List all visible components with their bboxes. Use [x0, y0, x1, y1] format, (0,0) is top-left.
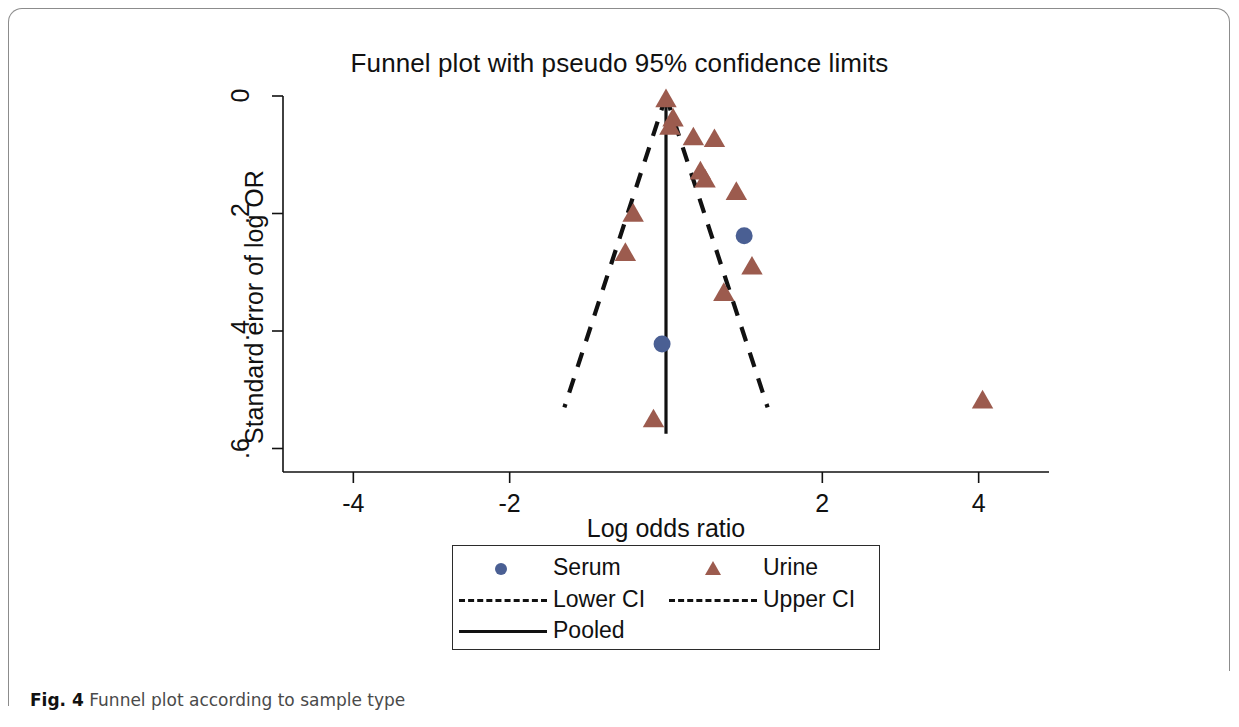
data-point-serum	[736, 227, 753, 244]
y-axis-title: Standard error of log OR	[240, 170, 269, 444]
y-axis-tick-label: 0	[226, 75, 255, 117]
legend-item-upper-ci: Upper CI	[667, 583, 855, 615]
legend-key-serum	[457, 552, 549, 582]
legend-item-label: Serum	[549, 554, 621, 581]
legend-key-ci	[457, 584, 549, 614]
legend-item-serum: Serum	[457, 551, 621, 583]
legend-item-label: Urine	[759, 554, 818, 581]
funnel-plot: Funnel plot with pseudo 95% confidence l…	[0, 0, 1239, 680]
legend-triangle-marker-icon	[705, 561, 721, 575]
legend: SerumUrineLower CIUpper CIPooled	[452, 545, 880, 650]
data-point-urine	[704, 128, 725, 147]
legend-circle-marker-icon	[495, 563, 507, 575]
data-point-urine	[726, 181, 747, 200]
legend-item-pooled: Pooled	[457, 614, 625, 646]
data-point-urine	[713, 282, 734, 301]
legend-dashed-line-icon	[669, 599, 757, 602]
data-point-urine	[615, 242, 636, 261]
legend-item-label: Lower CI	[549, 586, 645, 613]
legend-key-urine	[667, 552, 759, 582]
data-point-urine	[741, 256, 762, 275]
legend-item-urine: Urine	[667, 551, 818, 583]
caption-text: Funnel plot according to sample type	[89, 690, 405, 710]
data-point-urine	[655, 88, 676, 107]
legend-item-lower-ci: Lower CI	[457, 583, 645, 615]
data-point-urine	[683, 127, 704, 146]
data-point-urine	[643, 409, 664, 428]
legend-key-pooled	[457, 615, 549, 645]
figure-caption: Fig. 4 Funnel plot according to sample t…	[30, 690, 405, 710]
legend-key-ci	[667, 584, 759, 614]
legend-dashed-line-icon	[459, 599, 547, 602]
legend-item-label: Pooled	[549, 617, 625, 644]
data-point-serum	[654, 335, 671, 352]
data-point-urine	[972, 390, 993, 409]
caption-figure-number: Fig. 4	[30, 690, 84, 710]
x-axis-title: Log odds ratio	[283, 514, 1049, 543]
legend-item-label: Upper CI	[759, 586, 855, 613]
data-point-urine	[622, 203, 643, 222]
data-points	[615, 88, 994, 427]
legend-solid-line-icon	[459, 630, 547, 633]
